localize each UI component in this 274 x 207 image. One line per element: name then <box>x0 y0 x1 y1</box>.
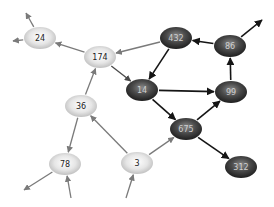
node-3: 3 <box>121 152 153 174</box>
edge-36-to-174 <box>85 69 95 95</box>
edge-675-to-312 <box>198 137 229 158</box>
node-label: 312 <box>233 163 248 172</box>
edge-in-to-78 <box>67 176 71 198</box>
edge-in-to-3 <box>126 175 133 198</box>
node-label: 86 <box>225 42 235 51</box>
edge-3-to-36 <box>91 116 128 153</box>
node-174: 174 <box>84 46 116 68</box>
node-label: 14 <box>137 86 147 95</box>
node-36: 36 <box>65 95 97 117</box>
node-432: 432 <box>160 27 192 49</box>
node-label: 78 <box>60 160 70 169</box>
node-675: 675 <box>170 118 202 140</box>
node-99: 99 <box>215 81 247 103</box>
node-label: 3 <box>134 159 139 168</box>
edge-24-to-out <box>26 13 34 27</box>
edge-3-to-675 <box>149 137 174 154</box>
node-label: 36 <box>76 102 86 111</box>
node-312: 312 <box>225 156 257 178</box>
node-24: 24 <box>24 27 56 49</box>
edge-78-to-out <box>24 172 52 190</box>
edge-86-to-432 <box>193 40 214 43</box>
edge-36-to-78 <box>68 118 78 152</box>
edge-14-to-675 <box>153 99 176 119</box>
node-label: 174 <box>92 53 107 62</box>
node-label: 675 <box>178 125 193 134</box>
node-14: 14 <box>126 79 158 101</box>
edge-174-to-24 <box>55 43 84 52</box>
node-label: 24 <box>35 34 45 43</box>
edge-432-to-174 <box>116 42 160 53</box>
edge-174-to-14 <box>111 66 130 81</box>
graph-diagram: 2417443286149936675783312 <box>0 0 274 207</box>
edge-86-to-out <box>241 20 262 37</box>
edge-24-to-out <box>13 40 23 41</box>
node-label: 432 <box>168 34 183 43</box>
edge-432-to-14 <box>149 49 169 79</box>
node-label: 99 <box>226 88 236 97</box>
nodes-layer: 2417443286149936675783312 <box>24 27 257 178</box>
node-78: 78 <box>49 153 81 175</box>
edge-675-to-99 <box>197 101 220 120</box>
node-86: 86 <box>214 35 246 57</box>
edge-14-to-99 <box>159 90 214 91</box>
